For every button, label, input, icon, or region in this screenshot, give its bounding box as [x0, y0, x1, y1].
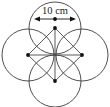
dimension-label: 10 cm [42, 5, 68, 16]
left-circle-center-dot [26, 53, 30, 57]
dimension-midpoint-dot [53, 17, 57, 21]
geometry-figure: 10 cm [0, 0, 110, 107]
dimension-arrowhead-right [70, 17, 76, 22]
center-square-group [28, 28, 82, 81]
top-circle-center-dot [53, 26, 57, 30]
dimension-annotation: 10 cm [34, 5, 76, 21]
dimension-arrowhead-left [34, 17, 40, 22]
bottom-circle-center-dot [53, 79, 57, 83]
right-circle-center-dot [80, 53, 84, 57]
figure-canvas: 10 cm [0, 0, 110, 107]
